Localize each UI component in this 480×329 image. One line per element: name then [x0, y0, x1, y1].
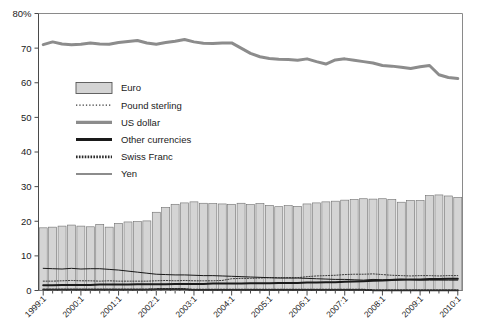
x-tick-label: 2002:1 [136, 294, 162, 320]
bar [388, 199, 396, 290]
bar [171, 204, 179, 290]
bar [322, 202, 330, 291]
currency-composition-chart: 01020304050607080% 1999:12000:12001:1200… [0, 0, 480, 329]
bar [237, 203, 245, 290]
bar [341, 200, 349, 290]
y-tick-label: 70 [21, 43, 32, 54]
legend-item: Euro [76, 82, 141, 93]
bar [143, 221, 151, 291]
bar [190, 202, 198, 291]
bar [58, 226, 66, 290]
bar [181, 203, 189, 291]
bar [350, 199, 358, 290]
legend-item: Other currencies [76, 134, 191, 145]
bar [133, 222, 141, 291]
legend-label: Swiss Franc [121, 151, 173, 162]
y-tick-label: 60 [21, 77, 32, 88]
legend-swatch-euro [76, 83, 112, 94]
legend-label: Other currencies [121, 134, 191, 145]
bar [162, 207, 170, 290]
bar [124, 222, 132, 291]
bar [444, 196, 452, 291]
x-tick-label: 2001:1 [98, 294, 124, 320]
bar [426, 196, 434, 291]
bar [407, 200, 415, 290]
legend-label: Pound sterling [121, 100, 182, 111]
x-tick-label: 2009:1 [400, 294, 426, 320]
bar [246, 205, 254, 291]
x-tick-label: 2007:1 [324, 294, 350, 320]
bar [378, 199, 386, 291]
y-tick-label: 20 [21, 216, 32, 227]
legend-label: Yen [121, 168, 137, 179]
y-tick-label: 40 [21, 146, 32, 157]
y-axis-ticks: 01020304050607080% [12, 8, 38, 296]
bar [331, 201, 339, 290]
bar [360, 199, 368, 291]
x-tick-label: 2008:1 [362, 294, 388, 320]
x-axis-ticks: 1999:12000:12001:12002:12003:12004:12005… [23, 291, 463, 320]
bar [152, 212, 160, 290]
bar [303, 204, 311, 291]
x-tick-label: 2000:1 [60, 294, 86, 320]
x-tick-label: 2010:1 [437, 294, 463, 320]
bar [312, 203, 320, 291]
x-tick-label: 2003:1 [173, 294, 199, 320]
legend-label: Euro [121, 82, 141, 93]
bar [397, 202, 405, 290]
legend-item: Pound sterling [76, 100, 182, 111]
bar [209, 204, 217, 291]
chart-legend: EuroPound sterlingUS dollarOther currenc… [76, 82, 191, 179]
bar [369, 199, 377, 290]
legend-label: US dollar [121, 117, 160, 128]
line-series-us-dollar [43, 39, 458, 78]
x-tick-label: 2004:1 [211, 294, 237, 320]
euro-bar-series [39, 195, 462, 291]
bar [454, 197, 462, 290]
y-tick-label: 0 [26, 285, 31, 296]
legend-item: US dollar [76, 117, 160, 128]
line-series-swiss-franc [43, 289, 458, 290]
bar [115, 223, 123, 290]
bar [416, 200, 424, 290]
x-tick-label: 1999:1 [23, 294, 49, 320]
x-tick-label: 2006:1 [286, 294, 312, 320]
bar [199, 203, 207, 290]
bar [218, 204, 226, 291]
x-tick-label: 2005:1 [249, 294, 275, 320]
y-tick-label: 80% [12, 8, 32, 19]
legend-item: Swiss Franc [76, 151, 173, 162]
legend-item: Yen [76, 168, 137, 179]
bar [228, 204, 236, 290]
y-tick-label: 30 [21, 181, 32, 192]
y-tick-label: 50 [21, 112, 32, 123]
y-tick-label: 10 [21, 250, 32, 261]
chart-canvas: 01020304050607080% 1999:12000:12001:1200… [0, 0, 480, 329]
